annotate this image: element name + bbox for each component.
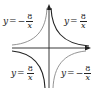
fraction-numerator: 8 xyxy=(27,65,34,73)
label-sign: − xyxy=(18,17,26,26)
label-equals: = xyxy=(9,17,17,26)
label-bottom-right: y = − 8 x xyxy=(61,65,91,82)
label-top-left: y = − 8 x xyxy=(3,13,33,30)
fraction-denominator: x xyxy=(80,22,87,30)
label-fraction: 8 x xyxy=(80,13,87,30)
fraction-numerator: 8 xyxy=(26,13,33,21)
label-fraction: 8 x xyxy=(84,65,91,82)
label-bottom-left: y = 8 x xyxy=(11,65,34,82)
fraction-numerator: 8 xyxy=(84,65,91,73)
fraction-numerator: 8 xyxy=(80,13,87,21)
label-lhs: y xyxy=(61,69,66,78)
fraction-denominator: x xyxy=(26,22,33,30)
fraction-denominator: x xyxy=(27,74,34,82)
label-lhs: y xyxy=(3,17,8,26)
label-equals: = xyxy=(67,69,75,78)
label-top-right: y = 8 x xyxy=(64,13,87,30)
hyperbola-graph: y = − 8 x y = 8 x y = 8 x y = − 8 xyxy=(0,0,97,91)
label-equals: = xyxy=(17,69,25,78)
label-lhs: y xyxy=(11,69,16,78)
label-sign: − xyxy=(76,69,84,78)
label-fraction: 8 x xyxy=(27,65,34,82)
label-fraction: 8 x xyxy=(26,13,33,30)
label-lhs: y xyxy=(64,17,69,26)
label-equals: = xyxy=(70,17,78,26)
fraction-denominator: x xyxy=(84,74,91,82)
